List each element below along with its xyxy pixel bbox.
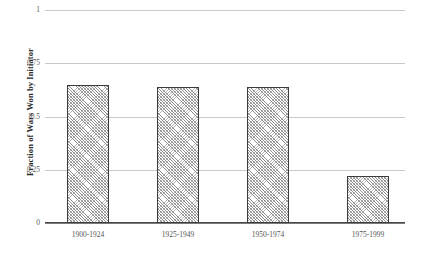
y-tick-label-05: 0.5	[0, 113, 40, 121]
y-tick-label-1: 1	[0, 6, 40, 14]
bars-layer	[45, 10, 405, 223]
x-tick-label-3: 1975-1999	[352, 230, 385, 239]
plot-area	[45, 10, 405, 223]
bar-1925-1949	[157, 87, 199, 223]
y-tick-label-0: 0	[0, 219, 40, 227]
x-tick-label-0: 1900-1924	[72, 230, 105, 239]
bar-chart: Fraction of Wars Won by Initiator 1 0.75…	[0, 0, 427, 260]
y-tick-label-075: 0.75	[0, 60, 40, 68]
bar-1950-1974	[247, 87, 289, 223]
bar-1900-1924	[67, 85, 109, 223]
x-tick-label-1: 1925-1949	[162, 230, 195, 239]
y-tick-label-025: 0.25	[0, 166, 40, 174]
bar-1975-1999	[347, 176, 389, 223]
x-axis-tick-labels: 1900-1924 1925-1949 1950-1974 1975-1999	[45, 230, 405, 244]
x-tick-label-2: 1950-1974	[252, 230, 285, 239]
y-axis-tick-labels: 1 0.75 0.5 0.25 0	[0, 10, 40, 223]
